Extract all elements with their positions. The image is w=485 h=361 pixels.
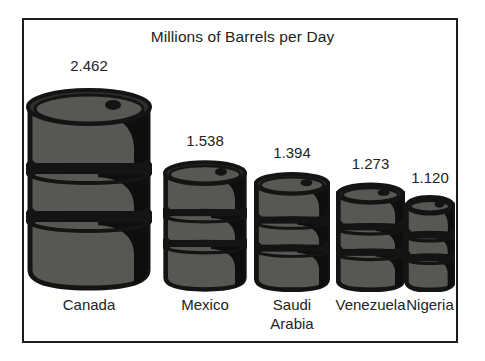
barrel-mexico: 1.538 [163, 159, 247, 292]
barrel-venezuela: 1.273 [336, 182, 405, 292]
value-label-venezuela: 1.273 [336, 155, 405, 172]
barrel-icon-saudi-arabia [254, 171, 330, 292]
oil-production-pictograph-chart: Millions of Barrels per Day 2.462 [0, 0, 485, 361]
chart-title: Millions of Barrels per Day [0, 28, 485, 46]
barrel-icon-nigeria [405, 195, 455, 292]
barrel-icon-canada [26, 85, 152, 292]
value-label-nigeria: 1.120 [405, 169, 455, 186]
value-label-saudi-arabia: 1.394 [254, 144, 330, 161]
value-label-mexico: 1.538 [163, 132, 247, 149]
category-label-nigeria: Nigeria [395, 295, 465, 314]
barrel-icon-venezuela [336, 182, 405, 292]
barrel-canada: 2.462 [26, 85, 152, 292]
barrel-nigeria: 1.120 [405, 195, 455, 292]
value-label-canada: 2.462 [26, 57, 152, 74]
barrel-icon-mexico [163, 159, 247, 292]
barrel-saudi-arabia: 1.394 [254, 171, 330, 292]
